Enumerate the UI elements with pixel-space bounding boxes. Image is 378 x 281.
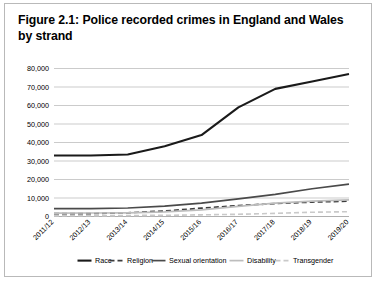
series-lines-group [54,74,349,216]
y-tick-label: 10,000 [27,194,49,203]
series-line-race [54,74,349,155]
y-tick-label: 60,000 [27,101,49,110]
y-tick-label: 40,000 [27,138,49,147]
y-tick-label: 80,000 [27,64,49,73]
x-tick-label: 2016/17 [215,218,240,243]
y-tick-label: 20,000 [27,175,49,184]
gridlines-group [54,69,349,217]
x-tick-label: 2014/15 [141,218,166,243]
line-chart-svg: 010,00020,00030,00040,00050,00060,00070,… [5,4,373,278]
x-tick-label: 2012/13 [68,218,93,243]
x-axis-tick-labels: 2011/122012/132013/142014/152015/162016/… [31,218,350,243]
series-line-disability [54,200,349,213]
chart-legend: RaceReligionSexual orientationDisability… [78,256,335,265]
legend-label: Transgender [293,256,334,265]
x-tick-label: 2015/16 [178,218,203,243]
y-tick-label: 50,000 [27,120,49,129]
chart-plot-area: 010,00020,00030,00040,00050,00060,00070,… [5,4,373,278]
x-tick-label: 2011/12 [31,218,55,242]
x-tick-label: 2013/14 [104,218,129,243]
legend-label: Race [95,256,112,265]
figure-container: Figure 2.1: Police recorded crimes in En… [4,3,372,277]
y-axis-tick-labels: 010,00020,00030,00040,00050,00060,00070,… [27,64,49,221]
x-tick-label: 2017/18 [252,218,277,243]
x-tick-label: 2018/19 [289,218,314,243]
series-line-sexual-orientation [54,184,349,208]
y-tick-label: 30,000 [27,157,49,166]
legend-label: Religion [127,256,153,265]
legend-label: Sexual orientation [169,256,227,265]
y-tick-label: 70,000 [27,83,49,92]
legend-label: Disability [247,256,276,265]
x-tick-label: 2019/20 [326,218,351,243]
